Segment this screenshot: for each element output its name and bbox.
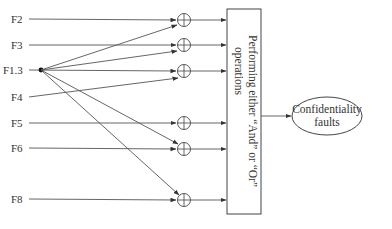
xor-gate-1 (178, 14, 191, 27)
input-label-f8: F8 (11, 193, 23, 205)
process-box-line2: operations (232, 47, 245, 95)
process-box-line1: Performing either “And” or “Or” (246, 35, 259, 187)
input-label-f6: F6 (11, 142, 23, 154)
input-label-f5: F5 (11, 117, 23, 129)
input-lines (29, 19, 178, 200)
input-label-f4: F4 (11, 91, 23, 103)
diagram-canvas: F2 F3 F1.3 F4 F5 F6 F8 (0, 0, 392, 229)
input-label-f1-3: F1.3 (3, 64, 23, 76)
input-label-f3: F3 (11, 39, 23, 51)
output-label-line2: faults (314, 116, 340, 128)
output-label-line1: Confidentiality (292, 103, 362, 116)
gate-output-lines (191, 20, 227, 200)
xor-gate-4 (178, 117, 191, 130)
xor-gate-5 (178, 143, 191, 156)
xor-gate-3 (178, 65, 191, 78)
xor-gate-6 (178, 194, 191, 207)
fanout-lines (41, 25, 179, 195)
input-label-f2: F2 (11, 13, 23, 25)
xor-gate-2 (178, 39, 191, 52)
